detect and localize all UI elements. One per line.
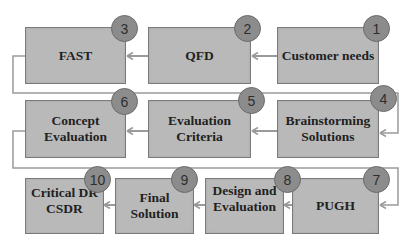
step-label: Evaluation Criteria — [168, 113, 231, 145]
step-box-design-and-evaluation: Design and Evaluation — [205, 178, 284, 234]
step-number-badge: 7 — [363, 166, 390, 193]
step-number-badge: 10 — [84, 166, 111, 193]
step-box-customer-needs: Customer needs — [277, 27, 379, 84]
step-box-fast: FAST — [25, 27, 126, 84]
step-label: Customer needs — [282, 48, 374, 64]
step-number-badge: 3 — [111, 15, 138, 42]
step-label: Concept Evaluation — [44, 113, 107, 145]
step-number-badge: 9 — [171, 166, 198, 193]
step-box-brainstorming-solutions: Brainstorming Solutions — [277, 100, 379, 158]
step-label: FAST — [59, 48, 93, 64]
step-number-badge: 1 — [363, 15, 390, 42]
step-number-badge: 2 — [234, 15, 261, 42]
step-box-concept-evaluation: Concept Evaluation — [25, 100, 126, 158]
process-flow-diagram: Customer needs 1 QFD 2 FAST 3 Brainstorm… — [0, 0, 411, 245]
step-label: Design and Evaluation — [212, 183, 276, 215]
step-number-badge: 6 — [111, 88, 138, 115]
step-label: PUGH — [316, 198, 355, 214]
step-number-badge: 8 — [274, 166, 301, 193]
step-label: QFD — [185, 48, 214, 64]
step-box-evaluation-criteria: Evaluation Criteria — [148, 100, 251, 158]
step-label: Final Solution — [130, 190, 178, 222]
step-number-badge: 5 — [238, 87, 265, 114]
step-number-badge: 4 — [370, 85, 397, 112]
step-label: Brainstorming Solutions — [286, 113, 371, 145]
